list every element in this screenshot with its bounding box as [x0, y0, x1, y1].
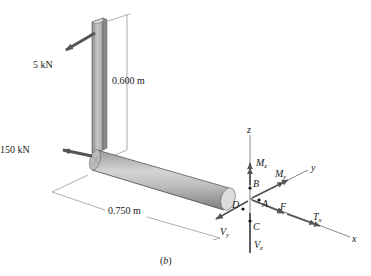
dimension-label-length: 0.750 m — [108, 205, 141, 216]
moment-label-my: My — [274, 168, 287, 181]
force-label-f: F — [279, 201, 287, 212]
point-label-d: D — [231, 199, 240, 210]
force-label-5kn: 5 kN — [33, 59, 53, 70]
figure-caption: (b) — [160, 255, 172, 267]
moment-label-mz: Mz — [255, 157, 267, 170]
vertical-bar — [92, 18, 107, 153]
force-arrow-5kn — [66, 33, 95, 50]
shear-label-vz: Vz — [254, 239, 263, 252]
force-arrow-150kn — [63, 150, 92, 156]
shear-label-vy: Vy — [220, 226, 230, 239]
torque-label-tx: Tx — [313, 211, 323, 224]
axis-label-y: y — [310, 162, 316, 173]
cylinder — [88, 149, 238, 212]
coordinate-axes — [250, 135, 350, 253]
dimension-label-height: 0.600 m — [112, 75, 145, 86]
force-label-150kn: 150 kN — [0, 144, 30, 155]
section-points — [241, 186, 260, 222]
point-label-a: A — [261, 198, 269, 209]
free-body-diagram: 5 kN 0.600 m 150 kN 0.750 m z y x B A C … — [0, 0, 371, 276]
axis-label-z: z — [246, 124, 251, 135]
axis-label-x: x — [351, 233, 357, 244]
point-label-b: B — [253, 178, 259, 189]
point-label-c: C — [253, 221, 260, 232]
